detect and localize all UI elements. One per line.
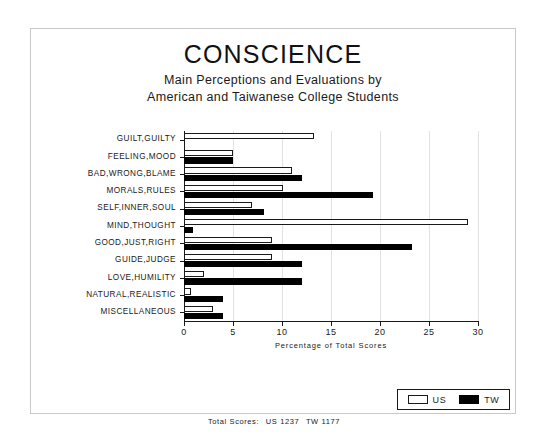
x-axis-tick <box>184 321 185 326</box>
category-row: FEELING,MOOD <box>184 148 478 165</box>
open-square-swatch-icon <box>408 395 428 404</box>
x-axis-tick <box>380 321 381 326</box>
bar-us <box>184 271 204 277</box>
chart-subtitle-line-2: American and Taiwanese College Students <box>31 89 515 106</box>
bar-us <box>184 150 233 156</box>
category-row: SELF,INNER,SOUL <box>184 200 478 217</box>
bar-us <box>184 237 272 243</box>
category-label: FEELING,MOOD <box>108 153 176 161</box>
legend-label-tw: TW <box>484 395 499 405</box>
x-axis-tick-label: 0 <box>181 327 187 337</box>
legend-entry-us: US <box>408 395 447 405</box>
category-row: MISCELLANEOUS <box>184 304 478 321</box>
bar-tw <box>184 278 302 284</box>
chart-legend: US TW <box>397 389 510 410</box>
category-label: MIND,THOUGHT <box>107 222 176 230</box>
category-label: MISCELLANEOUS <box>101 308 176 316</box>
filled-square-swatch-icon <box>459 395 479 404</box>
bar-us <box>184 288 191 294</box>
total-scores-label: Total Scores: <box>208 417 259 426</box>
x-axis-tick <box>331 321 332 326</box>
total-scores-us: US 1237 <box>266 417 299 426</box>
x-axis-tick <box>429 321 430 326</box>
gridline <box>478 131 479 321</box>
category-row: GUILT,GUILTY <box>184 131 478 148</box>
bar-tw <box>184 244 412 250</box>
category-label: BAD,WRONG,BLAME <box>88 170 176 178</box>
x-axis-tick-label: 20 <box>374 327 385 337</box>
x-axis-tick-label: 25 <box>423 327 434 337</box>
category-row: BAD,WRONG,BLAME <box>184 166 478 183</box>
bar-tw <box>184 313 223 319</box>
category-row: GOOD,JUST,RIGHT <box>184 235 478 252</box>
total-scores-tw: TW 1177 <box>306 417 340 426</box>
bar-us <box>184 306 213 312</box>
category-label: LOVE,HUMILITY <box>108 274 176 282</box>
category-label: SELF,INNER,SOUL <box>97 204 176 212</box>
bar-tw <box>184 261 302 267</box>
category-label: GOOD,JUST,RIGHT <box>95 239 176 247</box>
x-axis-tick-label: 10 <box>276 327 287 337</box>
y-axis-tick <box>180 140 184 141</box>
total-scores-footnote: Total Scores: US 1237 TW 1177 <box>31 417 517 426</box>
bar-us <box>184 202 252 208</box>
bar-tw <box>184 175 302 181</box>
category-label: MORALS,RULES <box>106 187 176 195</box>
x-axis-tick <box>233 321 234 326</box>
category-row: MIND,THOUGHT <box>184 217 478 234</box>
x-axis-tick <box>478 321 479 326</box>
bar-tw <box>184 227 193 233</box>
legend-entry-tw: TW <box>459 395 499 405</box>
category-row: LOVE,HUMILITY <box>184 269 478 286</box>
plot-area: GUILT,GUILTYFEELING,MOODBAD,WRONG,BLAMEM… <box>184 131 478 321</box>
x-axis-label: Percentage of Total Scores <box>184 341 478 350</box>
x-axis-tick-label: 15 <box>325 327 336 337</box>
x-axis-tick-label: 5 <box>230 327 236 337</box>
bar-tw <box>184 209 264 215</box>
category-label: NATURAL,REALISTIC <box>86 291 176 299</box>
bar-us <box>184 219 468 225</box>
chart-subtitle-line-1: Main Perceptions and Evaluations by <box>31 72 515 89</box>
bar-us <box>184 254 272 260</box>
category-row: GUIDE,JUDGE <box>184 252 478 269</box>
bar-us <box>184 133 314 139</box>
chart-title: CONSCIENCE <box>31 41 515 67</box>
x-axis-tick-label: 30 <box>472 327 483 337</box>
bar-us <box>184 185 283 191</box>
bar-us <box>184 167 292 173</box>
bar-tw <box>184 192 373 198</box>
chart-subtitle: Main Perceptions and Evaluations by Amer… <box>31 72 515 105</box>
category-row: MORALS,RULES <box>184 183 478 200</box>
category-label: GUILT,GUILTY <box>117 135 176 143</box>
title-block: CONSCIENCE Main Perceptions and Evaluati… <box>31 41 515 105</box>
legend-label-us: US <box>433 395 447 405</box>
x-axis-tick <box>282 321 283 326</box>
bar-tw <box>184 296 223 302</box>
category-label: GUIDE,JUDGE <box>115 256 176 264</box>
category-row: NATURAL,REALISTIC <box>184 286 478 303</box>
bar-tw <box>184 157 233 163</box>
